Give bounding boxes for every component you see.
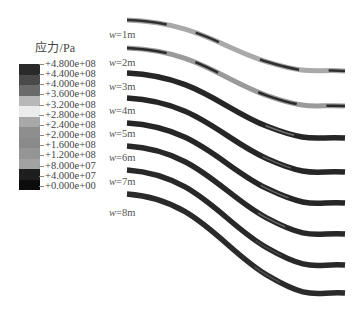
stratum-layer [127, 146, 345, 234]
strata-plot [0, 0, 364, 312]
stratum-width-label: w=5m [109, 128, 135, 139]
stratum-width-label: w=4m [109, 105, 135, 116]
stratum-width-label: w=3m [109, 81, 135, 92]
stratum-layer [127, 123, 345, 203]
stratum-width-label: w=6m [109, 152, 135, 163]
stratum-layer [127, 194, 345, 294]
stratum-width-label: w=2m [109, 57, 135, 68]
stratum-width-label: w=8m [109, 207, 135, 218]
stratum-width-label: w=1m [109, 29, 135, 40]
stratum-width-label: w=7m [109, 176, 135, 187]
stratum-layer [127, 20, 345, 71]
